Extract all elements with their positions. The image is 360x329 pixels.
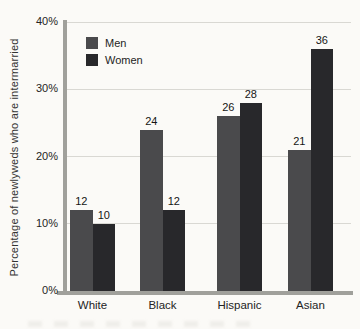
bar-value-men-hispanic: 26: [216, 101, 240, 113]
bar-value-women-black: 12: [162, 195, 186, 207]
gridline-30: [67, 89, 351, 90]
bar-men-hispanic: [217, 116, 240, 291]
intermarriage-bar-chart: Percentage of newlyweds who are intermar…: [0, 0, 360, 329]
scan-artifact: [28, 321, 258, 327]
ytick-label-20: 20%: [16, 150, 58, 162]
category-label-white: White: [53, 299, 133, 311]
bar-women-white: [93, 224, 116, 291]
bar-men-asian: [288, 150, 311, 291]
bar-women-black: [163, 210, 186, 291]
bar-women-hispanic: [240, 103, 263, 291]
bar-men-white: [70, 210, 93, 291]
category-label-black: Black: [123, 299, 203, 311]
legend-item-men: Men: [86, 37, 143, 49]
category-label-asian: Asian: [271, 299, 351, 311]
bar-value-men-white: 12: [69, 195, 93, 207]
ytick-label-40: 40%: [16, 15, 58, 27]
bar-value-women-asian: 36: [310, 34, 334, 46]
bar-men-black: [140, 130, 163, 291]
bar-women-asian: [311, 49, 334, 291]
legend: Men Women: [86, 37, 143, 71]
bar-value-men-black: 24: [139, 115, 163, 127]
ytick-label-30: 30%: [16, 82, 58, 94]
ytick-label-10: 10%: [16, 217, 58, 229]
legend-label-women: Women: [105, 54, 143, 66]
women-series-swatch-icon: [86, 54, 98, 66]
bar-value-women-hispanic: 28: [239, 88, 263, 100]
legend-label-men: Men: [105, 37, 126, 49]
men-series-swatch-icon: [86, 37, 98, 49]
bar-value-women-white: 10: [92, 209, 116, 221]
bar-value-men-asian: 21: [287, 135, 311, 147]
x-axis-baseline: [57, 291, 353, 295]
ytick-label-0: 0%: [16, 284, 58, 296]
legend-item-women: Women: [86, 54, 143, 66]
gridline-40: [67, 22, 351, 23]
category-label-hispanic: Hispanic: [200, 299, 280, 311]
